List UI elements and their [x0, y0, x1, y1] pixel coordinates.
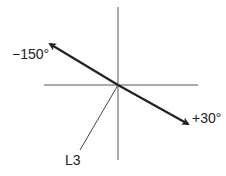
vector-plus-30 [118, 85, 188, 124]
vector-minus-150 [50, 44, 118, 85]
label-minus-150: −150° [12, 47, 49, 61]
phasor-diagram [0, 0, 226, 176]
lead-line-l3 [80, 85, 118, 150]
label-plus-30: +30° [192, 111, 221, 125]
label-l3: L3 [65, 153, 81, 167]
